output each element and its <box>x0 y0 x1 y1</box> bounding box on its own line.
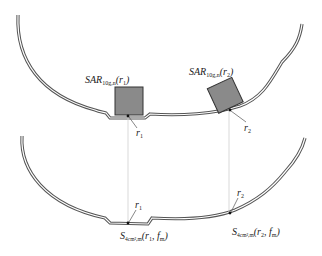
label-r1-top: r1 <box>136 127 143 139</box>
sar-cube-1 <box>115 87 143 115</box>
label-r2-bottom: r2 <box>237 187 244 199</box>
label-r2-top: r2 <box>244 122 251 134</box>
point-r1-top <box>127 115 130 118</box>
leader-r2-top <box>231 111 246 122</box>
label-s-r2: S4cm²,m(r2, fm) <box>232 226 280 238</box>
top-shell-outline <box>18 15 302 118</box>
label-s-r1: S4cm²,m(r1, fm) <box>120 230 168 242</box>
label-sar-r2: SAR10g,n(r2) <box>189 66 234 78</box>
point-r2-top <box>229 109 232 112</box>
point-r2-bottom <box>229 212 232 215</box>
diagram-canvas: SAR10g,n(r1) SAR10g,n(r2) r1 r2 r1 r2 S4… <box>0 0 322 256</box>
point-r1-bottom <box>127 222 130 225</box>
leader-r1-bottom <box>129 210 136 222</box>
label-sar-r1: SAR10g,n(r1) <box>85 74 130 86</box>
label-r1-bottom: r1 <box>135 199 142 211</box>
bottom-shell-outline <box>22 136 305 224</box>
